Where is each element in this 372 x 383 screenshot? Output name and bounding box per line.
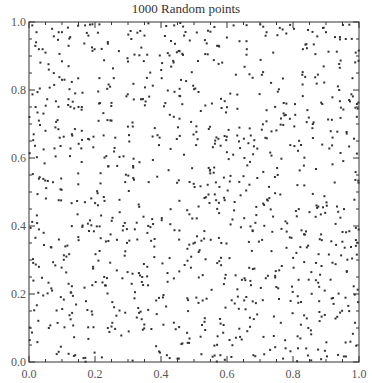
- data-point: [346, 270, 348, 272]
- data-point: [82, 92, 84, 94]
- data-point: [148, 96, 150, 98]
- data-point: [277, 91, 279, 93]
- data-point: [100, 237, 102, 239]
- data-point: [248, 267, 250, 269]
- data-point: [269, 152, 271, 154]
- data-point: [301, 229, 303, 231]
- data-point: [111, 102, 113, 104]
- data-point: [220, 257, 222, 259]
- data-point: [87, 326, 89, 328]
- data-point: [302, 84, 304, 86]
- data-point: [297, 150, 299, 152]
- data-point: [315, 168, 317, 170]
- data-point: [189, 338, 191, 340]
- data-point: [58, 351, 60, 353]
- data-point: [81, 130, 83, 132]
- data-point: [124, 181, 126, 183]
- data-point: [256, 148, 258, 150]
- data-point: [224, 135, 226, 137]
- data-point: [31, 24, 33, 26]
- data-point: [68, 98, 70, 100]
- data-point: [119, 310, 121, 312]
- data-point: [33, 309, 35, 311]
- data-point: [201, 324, 203, 326]
- data-point: [298, 208, 300, 210]
- data-point: [274, 106, 276, 108]
- data-point: [339, 217, 341, 219]
- data-point: [320, 233, 322, 235]
- data-point: [300, 144, 302, 146]
- data-point: [314, 76, 316, 78]
- data-point: [77, 77, 79, 79]
- data-point: [68, 283, 70, 285]
- data-point: [315, 279, 317, 281]
- data-point: [92, 266, 94, 268]
- data-point: [354, 179, 356, 181]
- data-point: [185, 80, 187, 82]
- data-point: [212, 146, 214, 148]
- data-point: [61, 60, 63, 62]
- data-point: [223, 283, 225, 285]
- data-point: [200, 185, 202, 187]
- data-point: [326, 355, 328, 357]
- data-point: [246, 48, 248, 50]
- data-point: [346, 259, 348, 261]
- data-point: [88, 230, 90, 232]
- data-point: [54, 126, 56, 128]
- data-point: [173, 116, 175, 118]
- data-point: [70, 106, 72, 108]
- data-point: [225, 274, 227, 276]
- data-point: [94, 48, 96, 50]
- data-point: [312, 193, 314, 195]
- data-point: [38, 266, 40, 268]
- data-point: [274, 176, 276, 178]
- data-point: [331, 144, 333, 146]
- data-point: [312, 137, 314, 139]
- data-point: [233, 209, 235, 211]
- data-point: [301, 74, 303, 76]
- data-point: [104, 157, 106, 159]
- data-point: [70, 318, 72, 320]
- data-point: [249, 161, 251, 163]
- data-point: [290, 350, 292, 352]
- data-point: [57, 39, 59, 41]
- data-point: [53, 35, 55, 37]
- data-point: [80, 147, 82, 149]
- data-point: [127, 93, 129, 95]
- y-tick-label: 0.2: [11, 287, 26, 301]
- data-point: [112, 67, 114, 69]
- data-point: [296, 184, 298, 186]
- data-point: [245, 190, 247, 192]
- data-point: [241, 279, 243, 281]
- data-point: [77, 183, 79, 185]
- data-point: [161, 62, 163, 64]
- data-point: [63, 299, 65, 301]
- data-point: [178, 230, 180, 232]
- data-point: [60, 346, 62, 348]
- data-point: [213, 172, 215, 174]
- data-point: [61, 308, 63, 310]
- data-point: [305, 230, 307, 232]
- data-point: [72, 295, 74, 297]
- data-point: [350, 246, 352, 248]
- data-point: [209, 202, 211, 204]
- data-point: [304, 234, 306, 236]
- data-point: [223, 197, 225, 199]
- y-tick-label: 0.6: [11, 151, 26, 165]
- data-point: [191, 218, 193, 220]
- data-point: [339, 38, 341, 40]
- data-point: [111, 326, 113, 328]
- data-point: [306, 109, 308, 111]
- data-point: [219, 318, 221, 320]
- data-point: [31, 332, 33, 334]
- data-point: [174, 229, 176, 231]
- data-point: [48, 63, 50, 65]
- data-point: [87, 35, 89, 37]
- data-point: [61, 267, 63, 269]
- data-point: [90, 224, 92, 226]
- data-point: [354, 61, 356, 63]
- data-point: [281, 265, 283, 267]
- data-point: [124, 222, 126, 224]
- data-point: [134, 291, 136, 293]
- data-point: [218, 186, 220, 188]
